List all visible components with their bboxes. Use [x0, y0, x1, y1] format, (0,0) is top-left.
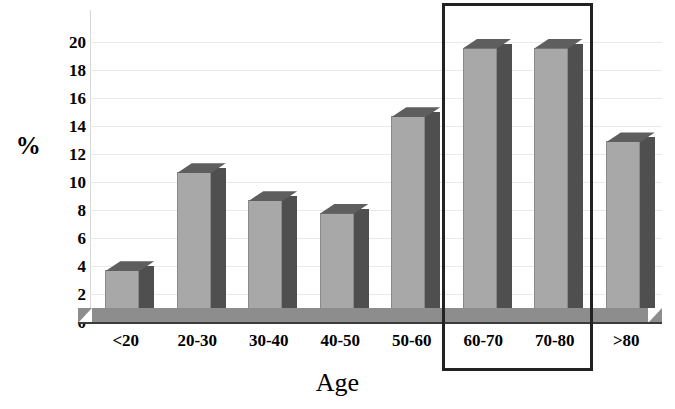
- y-axis-line: [90, 10, 91, 322]
- x-axis-baseline: [78, 322, 662, 324]
- bar-front-face: [320, 213, 354, 322]
- chart-floor: [78, 308, 662, 323]
- bar-front-face: [177, 172, 211, 322]
- bar: [606, 131, 640, 322]
- x-axis-tick-label: 20-30: [162, 328, 234, 354]
- x-axis-tick-label: 40-50: [305, 328, 377, 354]
- bar-side-face: [568, 44, 583, 315]
- x-axis-tick-label: 50-60: [376, 328, 448, 354]
- bar-front-face: [248, 200, 282, 322]
- bar: [248, 190, 282, 322]
- bar: [320, 203, 354, 322]
- bar-side-face: [497, 44, 512, 315]
- y-axis-tick-label: 8: [48, 202, 86, 219]
- bar-chart: % 02468101214161820 <2020-3030-4040-5050…: [0, 0, 675, 409]
- bar: [534, 38, 568, 322]
- y-axis-tick-label: 14: [48, 118, 86, 135]
- x-axis-title: Age: [0, 368, 675, 398]
- y-axis-tick-label: 6: [48, 230, 86, 247]
- bar-front-face: [606, 141, 640, 322]
- y-axis-tick-label: 2: [48, 286, 86, 303]
- bar: [463, 38, 497, 322]
- bar-side-face: [282, 196, 297, 315]
- x-axis-tick-label: 30-40: [233, 328, 305, 354]
- bar-side-face: [354, 209, 369, 315]
- y-axis-tick-label: 12: [48, 146, 86, 163]
- bar-front-face: [534, 48, 568, 322]
- x-axis-tick-label: >80: [591, 328, 663, 354]
- y-axis-title: %: [8, 132, 48, 160]
- x-axis-tick-label: 70-80: [519, 328, 591, 354]
- chart-floor-surface: [78, 308, 662, 323]
- y-axis-tick-label: 16: [48, 90, 86, 107]
- y-axis-tick-label: 10: [48, 174, 86, 191]
- plot-area: [90, 10, 662, 322]
- bar-side-face: [640, 137, 655, 315]
- bar: [391, 106, 425, 322]
- y-axis-tick-label: 4: [48, 258, 86, 275]
- bar-side-face: [211, 168, 226, 315]
- bar: [177, 162, 211, 322]
- bar-side-face: [425, 112, 440, 315]
- x-axis-tick-labels: <2020-3030-4040-5050-6060-7070-80>80: [90, 328, 662, 362]
- x-axis-tick-label: 60-70: [448, 328, 520, 354]
- y-axis-tick-label: 18: [48, 62, 86, 79]
- y-axis-tick-label: 20: [48, 34, 86, 51]
- x-axis-tick-label: <20: [90, 328, 162, 354]
- bar-front-face: [463, 48, 497, 322]
- bar-front-face: [391, 116, 425, 322]
- y-axis-tick-labels: 02468101214161820: [48, 30, 86, 322]
